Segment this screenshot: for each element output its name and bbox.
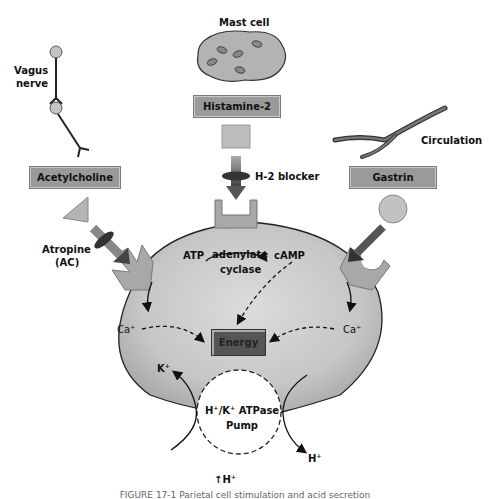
pump-label-line1: H⁺/K⁺ ATPase: [205, 405, 279, 417]
hydrogen-out-label: H⁺: [308, 453, 322, 465]
mast-cell-label: Mast cell: [219, 17, 269, 29]
energy-box: Energy: [211, 329, 266, 356]
mast-cell-icon: [198, 31, 286, 81]
histamine-arrow: [222, 156, 250, 200]
increased-hydrogen-label: ↑H⁺: [214, 474, 236, 486]
pump-label-line2: Pump: [226, 420, 258, 432]
histamine-ligand-icon: [222, 125, 250, 148]
histamine-box: Histamine-2: [193, 95, 281, 118]
vagus-nerve-label-line1: Vagus: [14, 65, 48, 77]
calcium-left-label: Ca⁺: [117, 324, 135, 336]
histamine-receptor: [215, 200, 257, 228]
acetylcholine-ligand-icon: [63, 197, 88, 222]
calcium-right-label: Ca⁺: [343, 324, 361, 336]
camp-label: cAMP: [274, 250, 305, 262]
h2-blocker-label: H-2 blocker: [255, 171, 319, 183]
gastrin-ligand-icon: [379, 195, 407, 223]
gastrin-box: Gastrin: [349, 166, 437, 189]
acetylcholine-arrow: [92, 228, 130, 264]
vagus-nerve-label-line2: nerve: [16, 78, 48, 90]
figure-caption: FIGURE 17-1 Parietal cell stimulation an…: [95, 490, 395, 499]
adenylate-cyclase-label-line2: cyclase: [220, 264, 261, 276]
atropine-label-line1: Atropine: [42, 244, 91, 256]
circulation-label: Circulation: [421, 135, 482, 147]
potassium-label: K⁺: [157, 363, 170, 375]
atropine-label-line2: (AC): [55, 257, 79, 269]
h2-blocker-disc-icon: [222, 172, 250, 181]
adenylate-cyclase-label-line1: adenylate: [212, 249, 268, 261]
acetylcholine-box: Acetylcholine: [29, 166, 121, 189]
vagus-nerve-icon: [50, 46, 89, 157]
blood-vessel-icon: [335, 108, 445, 157]
atp-label: ATP: [183, 250, 204, 262]
